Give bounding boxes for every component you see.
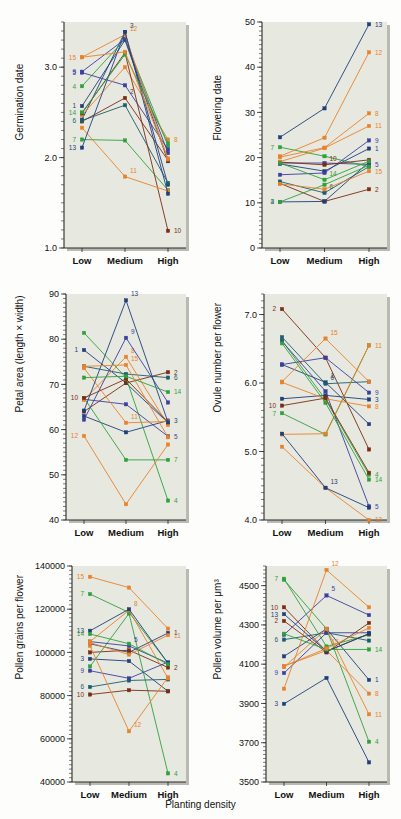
data-point xyxy=(88,665,91,668)
x-tick-label: High xyxy=(157,527,178,538)
data-point xyxy=(80,138,83,141)
series-label-9: 9 xyxy=(375,137,379,144)
data-point xyxy=(123,66,126,69)
data-point xyxy=(278,173,281,176)
data-point xyxy=(166,151,169,154)
data-point xyxy=(124,299,127,302)
data-point xyxy=(88,644,91,647)
series-label-13: 13 xyxy=(375,21,383,28)
series-label-5: 5 xyxy=(134,636,138,643)
data-point xyxy=(127,608,130,611)
data-point xyxy=(282,619,285,622)
chart-ovule-number: 4.05.06.07.0LowMediumHigh123456789101112… xyxy=(200,276,401,548)
series-label-6: 6 xyxy=(331,374,335,381)
data-point xyxy=(323,183,326,186)
x-tick-label: Medium xyxy=(107,255,143,266)
series-label-15: 15 xyxy=(69,54,77,61)
series-label-12: 12 xyxy=(375,49,383,56)
series-label-15: 15 xyxy=(375,168,383,175)
data-point xyxy=(166,690,169,693)
y-tick-label: 40 xyxy=(49,515,59,525)
data-point xyxy=(367,613,370,616)
data-point xyxy=(323,188,326,191)
data-point xyxy=(282,638,285,641)
data-point xyxy=(324,382,327,385)
data-point xyxy=(323,200,326,203)
data-point xyxy=(367,112,370,115)
data-point xyxy=(282,702,285,705)
data-point xyxy=(88,641,91,644)
chart-petal-area: 405060708090LowMediumHigh123456789101112… xyxy=(0,276,200,548)
data-point xyxy=(166,666,169,669)
reaction-norm-figure: 1.02.03.0LowMediumHigh123456789101112131… xyxy=(0,0,401,819)
data-point xyxy=(124,403,127,406)
y-axis-label: Flowering date xyxy=(212,75,223,141)
data-point xyxy=(80,146,83,149)
panel-pollen-grains: 400006000080000100000120000140000LowMedi… xyxy=(0,548,200,810)
data-point xyxy=(323,146,326,149)
y-axis-label: Pollen grains per flower xyxy=(14,575,25,680)
data-point xyxy=(127,642,130,645)
data-point xyxy=(367,626,370,629)
data-point xyxy=(80,104,83,107)
x-tick-label: High xyxy=(157,255,178,266)
data-point xyxy=(282,664,285,667)
y-tick-label: 50 xyxy=(245,17,255,27)
y-tick-label: 30 xyxy=(245,108,255,118)
series-label-1: 1 xyxy=(375,145,379,152)
data-point xyxy=(166,443,169,446)
data-point xyxy=(166,390,169,393)
chart-flowering-date: 01020304050LowMediumHigh1234567891011121… xyxy=(200,4,401,276)
data-point xyxy=(367,380,370,383)
data-point xyxy=(123,139,126,142)
x-tick-label: Medium xyxy=(108,527,144,538)
series-label-7: 7 xyxy=(270,144,274,151)
series-label-9: 9 xyxy=(80,667,84,674)
series-label-8: 8 xyxy=(375,110,379,117)
data-point xyxy=(82,396,85,399)
series-label-1: 1 xyxy=(74,346,78,353)
data-point xyxy=(367,448,370,451)
data-point xyxy=(166,772,169,775)
x-tick-label: Low xyxy=(75,527,95,538)
data-point xyxy=(325,594,328,597)
data-point xyxy=(124,458,127,461)
data-point xyxy=(123,84,126,87)
data-point xyxy=(166,663,169,666)
series-label-4: 4 xyxy=(174,497,178,504)
data-point xyxy=(166,676,169,679)
data-point xyxy=(82,418,85,421)
series-label-14: 14 xyxy=(69,109,77,116)
data-point xyxy=(282,671,285,674)
series-label-10: 10 xyxy=(330,155,338,162)
data-point xyxy=(124,336,127,339)
series-label-9: 9 xyxy=(274,669,278,676)
series-label-2: 2 xyxy=(274,617,278,624)
data-point xyxy=(127,677,130,680)
data-point xyxy=(323,107,326,110)
data-point xyxy=(324,356,327,359)
data-point xyxy=(325,647,328,650)
y-axis-label: Petal area (length × width) xyxy=(14,295,25,412)
data-point xyxy=(367,478,370,481)
data-point xyxy=(166,627,169,630)
data-point xyxy=(325,676,328,679)
series-label-13: 13 xyxy=(331,478,339,485)
data-point xyxy=(124,355,127,358)
y-tick-label: 40000 xyxy=(40,777,65,787)
data-point xyxy=(127,586,130,589)
series-label-6: 6 xyxy=(80,683,84,690)
series-label-14: 14 xyxy=(375,646,383,653)
x-tick-label: Low xyxy=(73,255,93,266)
data-point xyxy=(88,657,91,660)
series-label-2: 2 xyxy=(375,186,379,193)
series-label-14: 14 xyxy=(174,388,182,395)
data-point xyxy=(323,136,326,139)
data-point xyxy=(323,163,326,166)
data-point xyxy=(367,621,370,624)
series-label-7: 7 xyxy=(174,456,178,463)
data-point xyxy=(80,111,83,114)
data-point xyxy=(124,431,127,434)
y-tick-label: 80000 xyxy=(40,691,65,701)
data-point xyxy=(280,380,283,383)
